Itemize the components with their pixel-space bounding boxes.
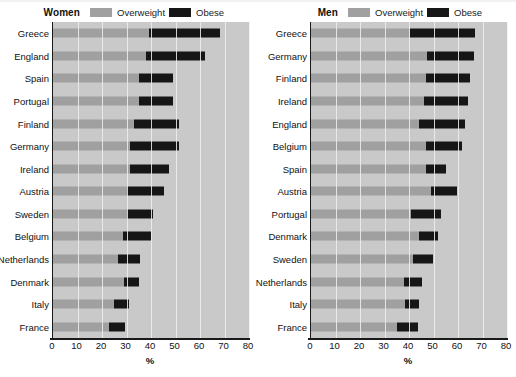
category-label: Austria — [19, 186, 49, 197]
legend-label-obese: Obese — [196, 7, 224, 18]
category-label: England — [272, 118, 307, 129]
bar-segment-overweight — [53, 164, 130, 173]
plot-area-men: GreeceGermanyFinlandIrelandEnglandBelgiu… — [310, 22, 507, 338]
stacked-bar — [311, 119, 465, 128]
gridline — [200, 22, 201, 338]
stacked-bar — [311, 232, 438, 241]
panel-women: Women Overweight Obese GreeceEnglandSpai… — [0, 0, 258, 377]
category-label: Spain — [25, 73, 49, 84]
bar-segment-obese — [424, 96, 468, 105]
bar-segment-overweight — [311, 300, 405, 309]
bar-segment-obese — [397, 322, 418, 331]
category-label: Finland — [276, 73, 307, 84]
bar-segment-overweight — [311, 119, 419, 128]
category-label: Portugal — [14, 95, 49, 106]
x-axis-label-men: % — [310, 355, 506, 366]
stacked-bar — [311, 164, 446, 173]
bar-segment-overweight — [311, 277, 404, 286]
stacked-bar — [311, 277, 422, 286]
stacked-bar — [53, 119, 179, 128]
x-axis-ticks-women: 01020304050607080 — [52, 340, 248, 354]
stacked-bar — [53, 74, 173, 83]
bar-segment-overweight — [53, 51, 146, 60]
x-tick-label: 30 — [378, 340, 389, 351]
bar-segment-obese — [139, 96, 173, 105]
bar-segment-obese — [426, 142, 462, 151]
bar-segment-obese — [411, 209, 440, 218]
category-label: Netherlands — [0, 253, 49, 264]
bar-segment-overweight — [311, 187, 431, 196]
legend-item-obese-women: Obese — [169, 7, 224, 18]
category-label: Spain — [283, 163, 307, 174]
bar-segment-obese — [130, 142, 179, 151]
x-tick-label: 60 — [194, 340, 205, 351]
bar-segment-obese — [139, 74, 173, 83]
obese-swatch-icon — [427, 8, 449, 17]
gridline — [360, 22, 361, 338]
stacked-bar — [311, 142, 462, 151]
stacked-bar — [311, 322, 418, 331]
stacked-bar — [53, 300, 129, 309]
legend-item-obese-men: Obese — [427, 7, 482, 18]
bar-segment-obese — [118, 254, 140, 263]
bar-segment-overweight — [53, 300, 114, 309]
bar-segment-obese — [149, 29, 219, 38]
gridline — [249, 22, 250, 338]
bar-segment-obese — [130, 164, 169, 173]
bar-segment-obese — [127, 187, 165, 196]
panel-title-women: Women — [0, 7, 86, 18]
bar-segment-obese — [431, 187, 457, 196]
overweight-swatch-icon — [90, 8, 112, 17]
gridline — [434, 22, 435, 338]
stacked-bar — [53, 187, 164, 196]
x-tick-label: 50 — [169, 340, 180, 351]
stacked-bar — [311, 254, 433, 263]
bar-segment-overweight — [53, 232, 123, 241]
panel-title-men: Men — [258, 7, 344, 18]
bar-segment-overweight — [311, 96, 424, 105]
legend-label-overweight: Overweight — [117, 7, 165, 18]
stacked-bar — [53, 209, 153, 218]
legend-label-obese: Obese — [454, 7, 482, 18]
bar-segment-overweight — [53, 322, 109, 331]
gridline — [385, 22, 386, 338]
x-tick-label: 40 — [403, 340, 414, 351]
gridline — [225, 22, 226, 338]
x-tick-label: 10 — [329, 340, 340, 351]
stacked-bar — [311, 300, 419, 309]
bar-segment-obese — [410, 29, 475, 38]
x-tick-label: 0 — [49, 340, 54, 351]
gridline — [483, 22, 484, 338]
bar-segment-overweight — [53, 119, 134, 128]
bar-segment-overweight — [53, 277, 124, 286]
category-label: France — [19, 321, 49, 332]
plot-wrapper-men: GreeceGermanyFinlandIrelandEnglandBelgiu… — [258, 22, 516, 377]
x-tick-label: 40 — [145, 340, 156, 351]
x-tick-label: 80 — [501, 340, 512, 351]
gridline — [176, 22, 177, 338]
panel-men: Men Overweight Obese GreeceGermanyFinlan… — [258, 0, 516, 377]
x-axis-ticks-men: 01020304050607080 — [310, 340, 506, 354]
category-label: Netherlands — [256, 276, 307, 287]
x-tick-label: 50 — [427, 340, 438, 351]
x-tick-label: 0 — [307, 340, 312, 351]
x-tick-label: 70 — [218, 340, 229, 351]
x-tick-label: 80 — [243, 340, 254, 351]
obese-swatch-icon — [169, 8, 191, 17]
bar-segment-obese — [109, 322, 125, 331]
overweight-swatch-icon — [348, 8, 370, 17]
stacked-bar — [311, 209, 441, 218]
gridline — [127, 22, 128, 338]
gridline — [102, 22, 103, 338]
bar-segment-overweight — [311, 254, 413, 263]
legend-men: Men Overweight Obese — [258, 4, 516, 20]
category-label: Belgium — [273, 141, 307, 152]
category-label: Italy — [290, 299, 307, 310]
overweight-obesity-chart-figure: Women Overweight Obese GreeceEnglandSpai… — [0, 0, 516, 377]
category-label: Finland — [18, 118, 49, 129]
bar-segment-overweight — [311, 209, 411, 218]
bar-segment-obese — [413, 254, 434, 263]
stacked-bar — [53, 51, 205, 60]
legend-women: Women Overweight Obese — [0, 4, 258, 20]
bar-segment-obese — [426, 164, 446, 173]
